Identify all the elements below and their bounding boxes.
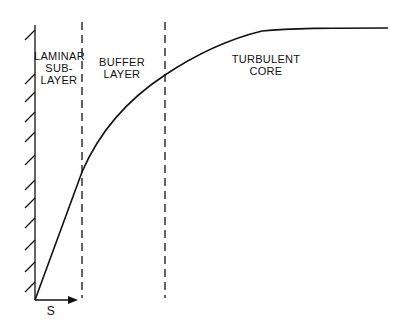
laminar-label-line3: LAYER	[34, 74, 84, 86]
s-axis-label: S	[44, 305, 58, 317]
turbulent-core-label: TURBULENT CORE	[226, 53, 306, 77]
buffer-label-line2: LAYER	[92, 68, 152, 80]
laminar-label-line2: SUB-	[34, 62, 84, 74]
laminar-sublayer-label: LAMINAR SUB- LAYER	[34, 50, 84, 86]
laminar-label-line1: LAMINAR	[34, 50, 84, 62]
s-axis-arrow	[35, 296, 78, 304]
turbulent-label-line2: CORE	[226, 65, 306, 77]
buffer-layer-label: BUFFER LAYER	[92, 56, 152, 80]
velocity-curve	[35, 28, 388, 300]
turbulent-label-line1: TURBULENT	[226, 53, 306, 65]
buffer-label-line1: BUFFER	[92, 56, 152, 68]
